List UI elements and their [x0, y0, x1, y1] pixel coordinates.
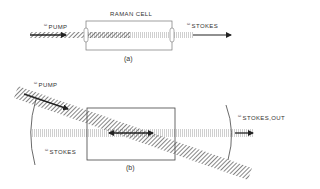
cell-window-left: [84, 28, 88, 42]
pump-label-b: ωPUMP: [34, 81, 57, 88]
stokes-label-b: ωSTOKES: [45, 148, 76, 155]
caption-a: (a): [124, 55, 133, 62]
raman-cell-label: RAMAN CELL: [110, 11, 152, 17]
pump-label-a: ωPUMP: [44, 23, 67, 30]
stokes-out-label: ωSTOKES,OUT: [238, 114, 285, 121]
stokes-label-a: ωSTOKES: [187, 22, 218, 29]
cell-window-right: [170, 28, 174, 42]
caption-b: (b): [126, 164, 135, 171]
